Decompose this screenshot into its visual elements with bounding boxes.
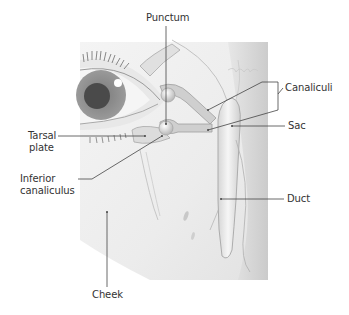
anatomy-illustration	[0, 0, 349, 315]
label-inferior-canaliculus-line1: Inferior	[20, 173, 55, 185]
upper-punctum-bulb	[161, 88, 175, 102]
label-duct: Duct	[287, 193, 310, 205]
label-tarsal-plate-line2: plate	[29, 142, 54, 154]
label-cheek: Cheek	[92, 289, 123, 301]
eye-highlight	[114, 79, 122, 87]
label-sac: Sac	[288, 120, 306, 132]
label-inferior-canaliculus-line2: canaliculus	[20, 185, 75, 197]
label-punctum: Punctum	[146, 12, 189, 24]
pupil	[84, 83, 110, 109]
label-canaliculi: Canaliculi	[285, 82, 333, 94]
lacrimal-diagram: Punctum Canaliculi Sac Tarsal plate Infe…	[0, 0, 349, 315]
label-tarsal-plate-line1: Tarsal	[28, 130, 56, 142]
